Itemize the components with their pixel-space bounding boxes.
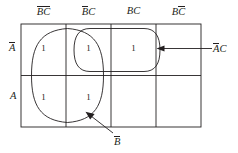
grouping-oval-a-not-c <box>74 29 160 72</box>
annotation-arrow-a-not-c <box>157 45 213 51</box>
annotation-arrow-b-not <box>86 112 114 133</box>
karnaugh-map-figure: BC BC BC BC A A 1 1 1 1 1 AC B <box>0 0 238 153</box>
kmap-drawing <box>0 0 238 153</box>
